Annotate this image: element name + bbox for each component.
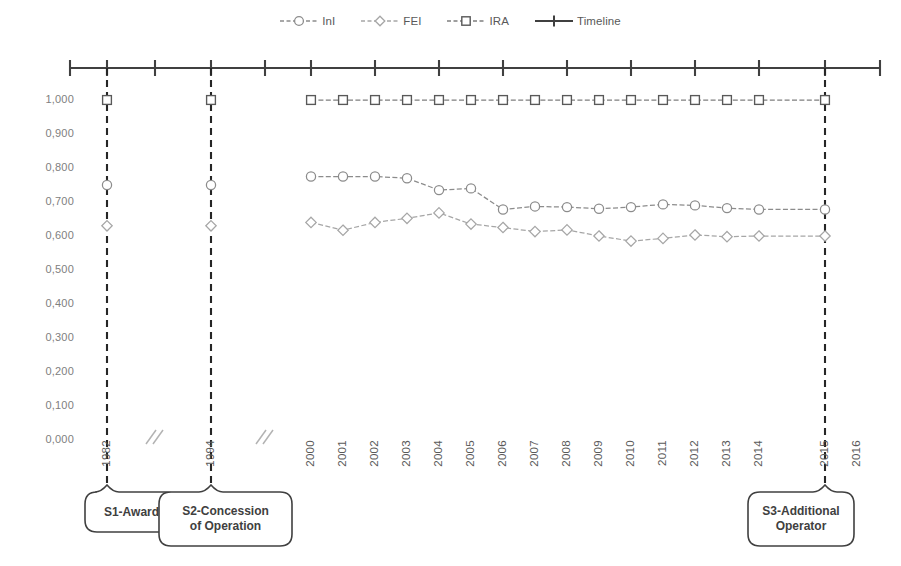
callout-s2-line1: S2-Concession bbox=[182, 504, 269, 518]
x-axis-tick-label: 2008 bbox=[560, 440, 572, 467]
y-axis-tick-label: 0,700 bbox=[30, 195, 74, 207]
x-axis-tick-label: 2015 bbox=[818, 440, 830, 467]
x-axis-tick-label: 2002 bbox=[368, 440, 380, 467]
timeline-axis bbox=[70, 60, 880, 76]
chart-container: InI FEI IRA Timeline bbox=[0, 0, 901, 566]
plot-area bbox=[0, 0, 901, 566]
callout-s3-additional-operator[interactable]: S3-Additional Operator bbox=[748, 492, 854, 546]
x-axis-tick-label: 2013 bbox=[720, 440, 732, 467]
series-line-ira bbox=[103, 96, 830, 105]
x-axis-tick-label: 2011 bbox=[656, 440, 668, 466]
x-axis-tick-label: 2004 bbox=[432, 440, 444, 467]
y-axis-tick-label: 0,900 bbox=[30, 127, 74, 139]
y-axis-tick-label: 1,000 bbox=[30, 93, 74, 105]
y-axis-tick-label: 0,200 bbox=[30, 365, 74, 377]
x-axis-tick-label: 2016 bbox=[850, 440, 862, 467]
x-axis-tick-label: 2006 bbox=[496, 440, 508, 467]
x-axis-tick-label: 2001 bbox=[336, 440, 348, 467]
event-dashed-lines bbox=[107, 68, 825, 497]
callout-s2-label: S2-Concession of Operation bbox=[176, 504, 275, 534]
callout-s3-line2: Operator bbox=[776, 519, 827, 533]
y-axis-tick-label: 0,100 bbox=[30, 399, 74, 411]
x-axis-tick-label: 1982 bbox=[100, 440, 112, 467]
y-axis-tick-label: 0,400 bbox=[30, 297, 74, 309]
x-axis-tick-label: 2014 bbox=[752, 440, 764, 467]
x-axis-tick-label: 2000 bbox=[304, 440, 316, 467]
callout-s1-label: S1-Award bbox=[98, 505, 165, 520]
callout-s3-line1: S3-Additional bbox=[762, 504, 839, 518]
x-axis-tick-label: 2009 bbox=[592, 440, 604, 467]
x-axis-tick-label: 2003 bbox=[400, 440, 412, 467]
callout-s2-concession[interactable]: S2-Concession of Operation bbox=[159, 492, 292, 546]
y-axis-tick-label: 0,600 bbox=[30, 229, 74, 241]
callout-s2-line2: of Operation bbox=[190, 519, 261, 533]
y-axis-tick-label: 0,800 bbox=[30, 161, 74, 173]
x-axis-tick-label: 2005 bbox=[464, 440, 476, 467]
y-axis-tick-label: 0,000 bbox=[30, 433, 74, 445]
x-axis-tick-label: 1994 bbox=[204, 440, 216, 467]
y-axis-tick-label: 0,500 bbox=[30, 263, 74, 275]
x-axis-tick-label: 2012 bbox=[688, 440, 700, 467]
y-axis-tick-label: 0,300 bbox=[30, 331, 74, 343]
x-axis-tick-label: 2010 bbox=[624, 440, 636, 467]
callout-s3-label: S3-Additional Operator bbox=[756, 504, 845, 534]
x-axis-tick-label: 2007 bbox=[528, 440, 540, 467]
